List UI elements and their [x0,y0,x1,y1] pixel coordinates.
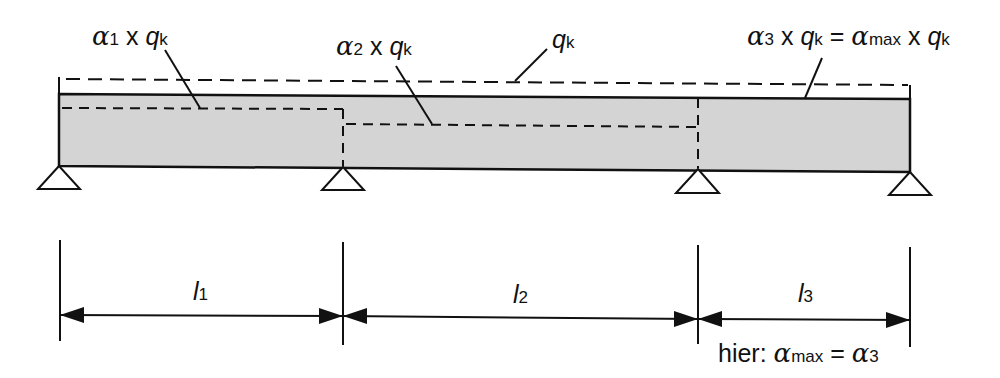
arrow-left-icon [698,311,722,327]
arrow-left-icon [60,307,84,323]
support-2-icon [322,167,364,190]
dim-line-span-2 [343,308,698,327]
support-4-icon [889,172,931,195]
dim-line-span-1 [60,307,343,324]
alpha2-label: α2 x qk [336,31,412,61]
alpha1-label: α1 x qk [92,21,168,51]
qk-label: qk [552,25,575,53]
support-1-icon [38,166,80,189]
note-label: hier: αmax = α3 [718,338,879,368]
arrow-right-icon [319,308,343,324]
arrow-right-icon [886,312,910,328]
alpha3-label: α3 x qk = αmax x qk [747,21,950,51]
support-3-icon [676,169,719,193]
beam-body [59,94,910,172]
qk-load-line [66,79,908,85]
span-3-label: l3 [798,279,813,307]
arrow-right-icon [674,311,698,327]
dim-line-span-3 [698,311,910,328]
qk-leader [515,49,547,81]
alpha1-load-line [62,108,343,109]
alpha3-leader [805,58,822,98]
span-2-label: l2 [513,280,528,308]
arrow-left-icon [343,308,367,324]
span-1-label: l1 [193,277,208,305]
beam-diagram: α1 x qk α2 x qk qk α3 x qk = αmax x qk l… [0,0,1000,378]
